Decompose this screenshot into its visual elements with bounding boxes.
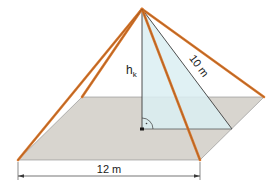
right-angle-dot xyxy=(146,123,148,125)
height-label: hk xyxy=(126,63,138,79)
base-length-label: 12 m xyxy=(97,163,121,175)
pyramid-diagram: hk 10 m 12 m xyxy=(0,0,278,192)
foot-point xyxy=(140,128,144,131)
pyramid-figure: hk 10 m 12 m xyxy=(0,0,278,192)
